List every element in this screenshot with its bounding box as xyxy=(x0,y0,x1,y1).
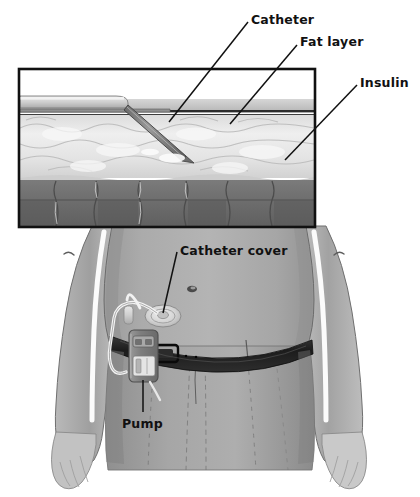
pump-cartridge-plunger xyxy=(136,359,141,373)
insulin-pump-figure: Catheter Fat layer Insulin Catheter cove… xyxy=(0,0,420,497)
left-nipple-mark xyxy=(64,252,74,255)
left-hand xyxy=(52,432,97,489)
label-fat-layer: Fat layer xyxy=(300,36,364,49)
pump-highlight xyxy=(131,334,132,378)
label-insulin: Insulin xyxy=(360,77,409,90)
cross-section-inset xyxy=(19,69,315,227)
label-pump: Pump xyxy=(122,418,163,431)
inset-needle-shaft xyxy=(20,109,170,112)
body-group xyxy=(52,226,367,489)
inset-tubing-highlight xyxy=(20,97,124,100)
label-catheter: Catheter xyxy=(251,14,314,27)
right-hand xyxy=(322,432,367,489)
tubing-connector xyxy=(124,306,133,324)
label-catheter-cover: Catheter cover xyxy=(180,245,288,258)
navel-highlight xyxy=(190,287,195,290)
left-hip-shadow xyxy=(106,350,125,464)
